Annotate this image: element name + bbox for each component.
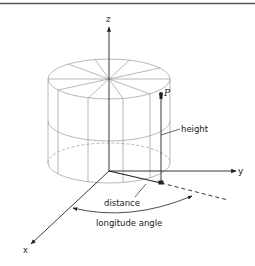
height-label: height <box>181 124 209 134</box>
x-axis <box>31 171 109 244</box>
distance-leader-line <box>135 184 146 197</box>
z-axis-label: z <box>105 14 111 24</box>
point-p-label: P <box>163 88 171 98</box>
x-axis-label: x <box>23 246 28 255</box>
y-axis-label: y <box>238 166 244 176</box>
longitude-angle-label: longitude angle <box>96 218 162 228</box>
distance-label: distance <box>104 198 140 208</box>
distance-extension-dashed <box>161 183 228 200</box>
cylindrical-coordinates-diagram: z y x P height distance longitude angle <box>0 0 255 266</box>
projection-point-marker <box>159 181 164 185</box>
point-p-stem <box>160 95 163 99</box>
